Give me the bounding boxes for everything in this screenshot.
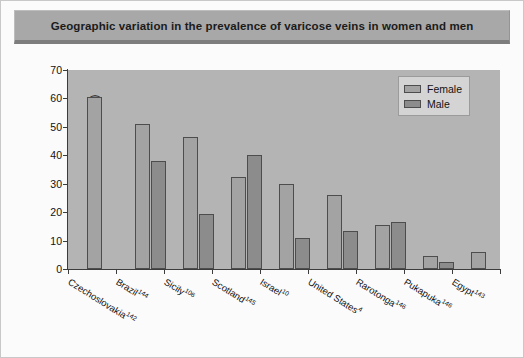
x-axis-tick-mark: [212, 269, 213, 274]
category-citation: 146: [395, 299, 408, 311]
x-axis-tick-mark: [452, 269, 453, 274]
category-citation: 142: [125, 310, 138, 322]
category-citation: 10: [281, 287, 291, 297]
page-title: Geographic variation in the prevalence o…: [51, 20, 474, 32]
y-axis-tick-mark: [63, 98, 68, 99]
bar-female: [327, 195, 342, 269]
chart-title-banner: Geographic variation in the prevalence o…: [14, 10, 510, 44]
x-axis-tick-label: Scotland145: [210, 276, 256, 311]
bar-male: [343, 231, 358, 269]
x-axis-tick-mark: [308, 269, 309, 274]
category-name: Scotland: [210, 276, 247, 305]
category-name: Brazil: [114, 276, 140, 298]
y-axis-tick-mark: [63, 70, 68, 71]
y-axis-tick-mark: [63, 127, 68, 128]
category-name: Israel: [258, 276, 284, 298]
chart-legend: FemaleMale: [398, 76, 470, 116]
y-axis-tick-label: 0: [40, 263, 62, 275]
bar-male: [199, 214, 214, 269]
x-axis-tick-label: Israel10: [258, 276, 290, 301]
x-axis-tick-label: Sicily106: [162, 276, 196, 303]
legend-label: Female: [427, 83, 462, 95]
bar-female: [471, 252, 486, 269]
y-axis-tick-mark: [63, 212, 68, 213]
bar-female: [231, 177, 246, 269]
bar-female: [375, 225, 390, 269]
x-axis-tick-mark: [68, 269, 69, 274]
y-axis-tick-label: 40: [40, 149, 62, 161]
bar-female: [135, 124, 150, 269]
y-axis-tick-mark: [63, 184, 68, 185]
legend-item-male: Male: [404, 96, 462, 111]
x-axis-tick-label: Brazil144: [114, 276, 149, 304]
y-axis-tick-label: 20: [40, 206, 62, 218]
category-citation: 106: [184, 287, 197, 299]
category-name: Sicily: [162, 276, 187, 297]
figure-container: Geographic variation in the prevalence o…: [0, 0, 524, 358]
bar-male: [247, 155, 262, 269]
y-axis-tick-label: 70: [40, 64, 62, 76]
x-axis-tick-mark: [404, 269, 405, 274]
x-axis-tick-mark: [260, 269, 261, 274]
category-citation: 144: [137, 288, 150, 300]
x-axis-tick-mark: [356, 269, 357, 274]
category-citation: 146: [441, 297, 454, 309]
legend-swatch-female: [404, 85, 421, 93]
legend-swatch-male: [404, 100, 421, 108]
category-citation: 145: [244, 295, 257, 307]
x-axis-tick-mark: [500, 269, 501, 274]
bar-male: [439, 262, 454, 269]
category-name: Pukapuka: [402, 276, 444, 308]
y-axis-tick-label: 10: [40, 235, 62, 247]
legend-item-female: Female: [404, 81, 462, 96]
bar-female: [279, 184, 294, 269]
category-citation: 143: [474, 288, 487, 300]
bar-male: [391, 222, 406, 269]
x-axis-line: [67, 269, 501, 270]
y-axis-tick-mark: [63, 155, 68, 156]
category-name: United States: [306, 276, 360, 316]
category-name: Egypt: [450, 276, 476, 298]
legend-label: Male: [427, 98, 450, 110]
bar-female: [183, 137, 198, 269]
y-axis-tick-label: 60: [40, 92, 62, 104]
bar-male: [295, 238, 310, 269]
bar-male: [151, 161, 166, 269]
x-axis-tick-label: Egypt143: [450, 276, 486, 304]
y-axis-tick-mark: [63, 241, 68, 242]
y-axis-tick-label: 50: [40, 121, 62, 133]
bar-female: [87, 97, 102, 269]
x-axis-tick-label: Pukapuka146: [402, 276, 453, 313]
category-name: Rarotonga: [354, 276, 397, 309]
x-axis-tick-mark: [164, 269, 165, 274]
y-axis-tick-label: 30: [40, 178, 62, 190]
x-axis-tick-mark: [116, 269, 117, 274]
bar-female: [423, 256, 438, 269]
